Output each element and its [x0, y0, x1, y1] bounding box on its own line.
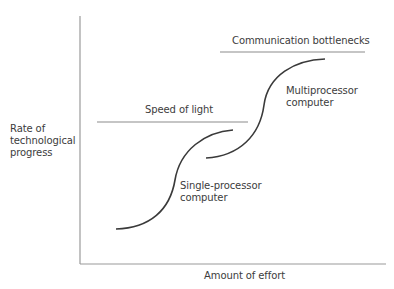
multiprocessor-label-line-2: computer — [286, 97, 358, 109]
multiprocessor-label-line-1: Multiprocessor — [286, 85, 358, 97]
y-axis-label-line-3: progress — [10, 147, 76, 159]
communication-bottlenecks-label: Communication bottlenecks — [232, 35, 370, 47]
single-processor-label-line-1: Single-processor — [180, 180, 261, 192]
y-axis-label: Rate of technological progress — [10, 123, 76, 159]
y-axis-label-line-2: technological — [10, 135, 76, 147]
multiprocessor-label: Multiprocessor computer — [286, 85, 358, 109]
single-processor-label: Single-processor computer — [180, 180, 261, 204]
y-axis-label-line-1: Rate of — [10, 123, 76, 135]
speed-of-light-label: Speed of light — [145, 104, 213, 116]
x-axis-label: Amount of effort — [204, 270, 285, 282]
single-processor-label-line-2: computer — [180, 192, 261, 204]
